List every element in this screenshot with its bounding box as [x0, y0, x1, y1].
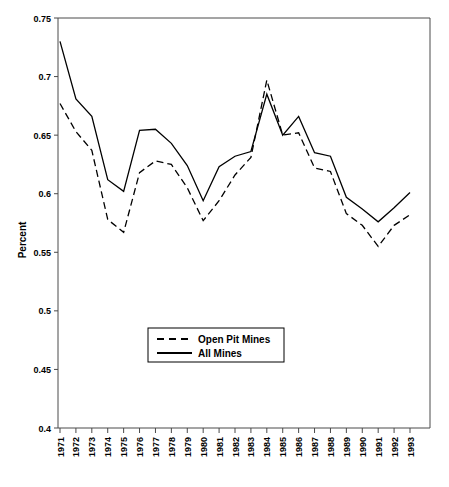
y-tick-label: 0.45 [33, 365, 51, 375]
y-tick-label: 0.55 [33, 248, 51, 258]
line-chart: Percent 0.40.450.50.550.60.650.70.75 197… [0, 0, 449, 487]
series-group [60, 41, 410, 246]
x-tick-group: 1971197219731974197519761977197819791980… [56, 428, 416, 457]
x-tick-label: 1978 [167, 437, 177, 457]
x-tick-label: 1985 [278, 437, 288, 457]
x-tick-label: 1982 [231, 437, 241, 457]
x-tick-label: 1972 [71, 437, 81, 457]
x-tick-label: 1986 [294, 437, 304, 457]
x-tick-label: 1977 [151, 437, 161, 457]
y-tick-label: 0.4 [38, 424, 51, 434]
x-tick-label: 1987 [310, 437, 320, 457]
x-tick-label: 1976 [135, 437, 145, 457]
x-tick-label: 1983 [246, 437, 256, 457]
x-tick-label: 1971 [56, 437, 66, 457]
y-tick-label: 0.7 [38, 72, 51, 82]
x-tick-label: 1989 [342, 437, 352, 457]
x-tick-label: 1979 [183, 437, 193, 457]
x-tick-label: 1990 [358, 437, 368, 457]
series-line-open-pit-mines [60, 80, 410, 246]
y-tick-group: 0.40.450.50.550.60.650.70.75 [33, 14, 58, 434]
y-tick-label: 0.6 [38, 189, 51, 199]
x-tick-label: 1993 [406, 437, 416, 457]
chart-container: Percent 0.40.450.50.550.60.650.70.75 197… [0, 0, 449, 487]
x-tick-label: 1984 [262, 437, 272, 457]
x-tick-label: 1988 [326, 437, 336, 457]
legend-label-open-pit-mines: Open Pit Mines [198, 334, 271, 345]
x-tick-label: 1991 [374, 437, 384, 457]
x-tick-label: 1992 [390, 437, 400, 457]
legend: Open Pit Mines All Mines [148, 328, 284, 362]
x-tick-label: 1973 [87, 437, 97, 457]
y-tick-label: 0.75 [33, 14, 51, 24]
y-axis-title: Percent [17, 221, 28, 258]
x-tick-label: 1981 [215, 437, 225, 457]
x-tick-label: 1974 [103, 437, 113, 457]
legend-label-all-mines: All Mines [198, 348, 242, 359]
y-tick-label: 0.65 [33, 131, 51, 141]
x-tick-label: 1975 [119, 437, 129, 457]
y-tick-label: 0.5 [38, 306, 51, 316]
series-line-all-mines [60, 41, 410, 221]
x-tick-label: 1980 [199, 437, 209, 457]
